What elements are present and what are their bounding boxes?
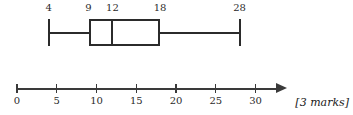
axis-tick-30 (255, 84, 256, 93)
box-plot-label-lower-quartile: 9 (76, 2, 102, 14)
box-plot-upper-whisker-line (160, 32, 240, 34)
box-plot-label-minimum: 4 (36, 2, 62, 14)
box-plot-lower-whisker-line (49, 32, 89, 34)
box-plot-diagram: 4 9 12 18 28 (0, 0, 353, 60)
axis-tick-label-0: 0 (4, 95, 30, 107)
axis-tick-25 (215, 84, 216, 93)
box-plot-maximum-whisker-cap (239, 19, 241, 46)
axis-tick-20 (175, 84, 176, 93)
axis-arrowhead-icon (276, 83, 287, 93)
axis-tick-label-10: 10 (84, 95, 110, 107)
box-plot-label-upper-quartile: 18 (147, 2, 173, 14)
axis-tick-10 (96, 84, 97, 93)
box-plot-interquartile-box (89, 19, 161, 46)
axis-tick-label-25: 25 (203, 95, 229, 107)
axis-tick-label-15: 15 (123, 95, 149, 107)
box-plot-median-line (111, 19, 113, 46)
marks-annotation: [3 marks] (295, 96, 349, 109)
axis-tick-15 (136, 84, 137, 93)
axis-tick-label-5: 5 (44, 95, 70, 107)
box-plot-label-maximum: 28 (227, 2, 253, 14)
axis-tick-5 (56, 84, 57, 93)
axis-tick-label-20: 20 (163, 95, 189, 107)
axis-tick-0 (16, 84, 17, 93)
box-plot-screenshot: 4 9 12 18 28 051015202530 [3 marks] (0, 0, 353, 115)
box-plot-label-median: 12 (99, 2, 125, 14)
axis-tick-label-30: 30 (243, 95, 269, 107)
